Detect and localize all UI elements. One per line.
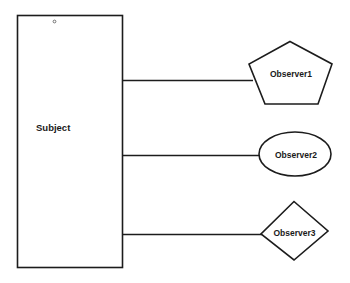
observer2-label: Observer2 xyxy=(275,150,317,160)
subject-label: Subject xyxy=(36,122,71,133)
observer1-node[interactable]: Observer1 xyxy=(249,42,332,105)
observer1-label: Observer1 xyxy=(270,69,312,79)
observer3-label: Observer3 xyxy=(273,228,315,238)
subject-box xyxy=(18,16,123,268)
observer2-node[interactable]: Observer2 xyxy=(259,132,331,176)
subject-node[interactable]: Subject xyxy=(18,16,123,268)
observer-diagram: Subject Observer1 Observer2 Observer3 xyxy=(0,0,350,283)
observer3-node[interactable]: Observer3 xyxy=(261,202,328,261)
